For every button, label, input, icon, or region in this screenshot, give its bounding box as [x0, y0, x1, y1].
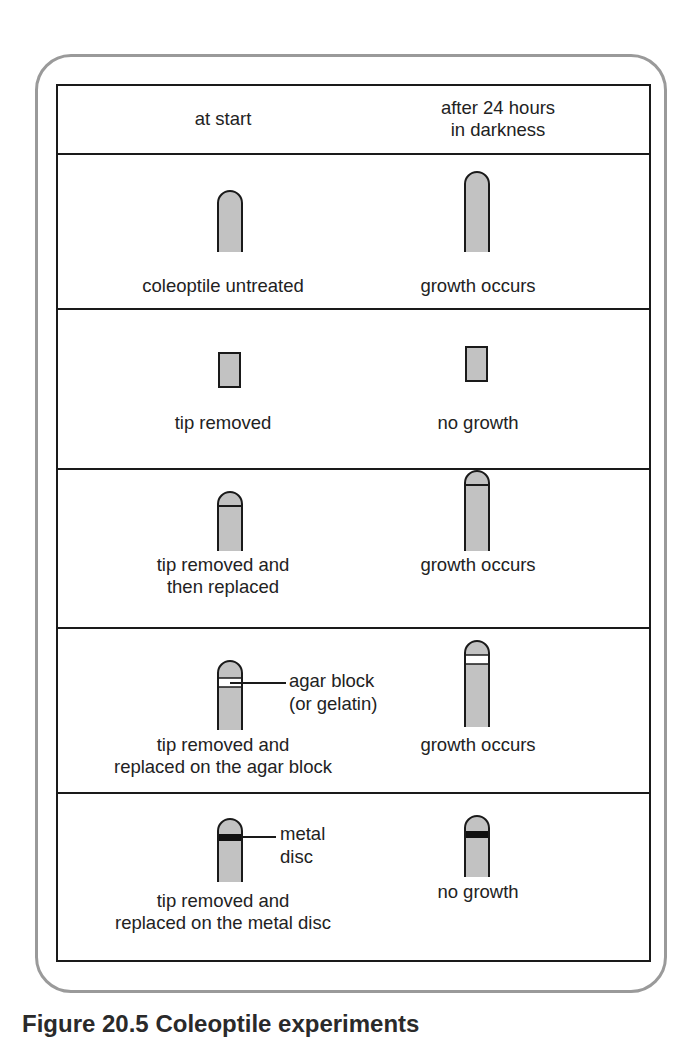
label-tip-removed-replaced-line1: tip removed and	[98, 554, 348, 576]
label-metal-start-line1: tip removed and	[78, 890, 368, 912]
label-agar-start-line2: replaced on the agar block	[78, 756, 368, 778]
coleoptile-metal-disc-icon	[216, 819, 276, 883]
table-row-metal-disc: metal disc tip removed and replaced on t…	[58, 794, 649, 960]
figure-number: Figure 20.5	[22, 1010, 149, 1037]
label-metal-start-line2: replaced on the metal disc	[78, 912, 368, 934]
label-agar-start-line1: tip removed and	[78, 734, 368, 756]
header-after-24h-line1: after 24 hours	[398, 97, 598, 119]
experiment-table: at start after 24 hours in darkness cole…	[56, 84, 651, 962]
table-row-agar-block: agar block (or gelatin) tip removed and …	[58, 629, 649, 794]
figure-caption: Figure 20.5 Coleoptile experiments	[22, 1010, 419, 1038]
annotation-disc: disc	[280, 846, 313, 868]
table-row-tip-replaced: tip removed and then replaced growth occ…	[58, 470, 649, 629]
label-growth-occurs-1: growth occurs	[388, 275, 568, 297]
table-header-row: at start after 24 hours in darkness	[58, 86, 649, 155]
label-no-growth-2: no growth	[388, 881, 568, 903]
label-growth-occurs-3: growth occurs	[388, 734, 568, 756]
label-growth-occurs-2: growth occurs	[388, 554, 568, 576]
label-coleoptile-untreated: coleoptile untreated	[98, 275, 348, 297]
label-no-growth-1: no growth	[388, 412, 568, 434]
annotation-agar-block: agar block	[289, 670, 374, 692]
table-row-untreated: coleoptile untreated growth occurs	[58, 155, 649, 310]
coleoptile-replaced-tip-icon	[216, 492, 244, 552]
header-at-start: at start	[153, 108, 293, 130]
coleoptile-metal-disc-no-growth-icon	[463, 816, 491, 878]
label-tip-removed: tip removed	[98, 412, 348, 434]
table-row-tip-removed: tip removed no growth	[58, 310, 649, 470]
coleoptile-stump-no-growth-icon	[463, 345, 491, 383]
coleoptile-replaced-tip-grown-icon	[463, 471, 491, 552]
figure-title: Coleoptile experiments	[155, 1010, 419, 1037]
coleoptile-agar-block-icon	[216, 661, 286, 731]
coleoptile-intact-icon	[216, 191, 244, 253]
annotation-metal: metal	[280, 823, 325, 845]
header-after-24h-line2: in darkness	[398, 119, 598, 141]
label-tip-removed-replaced-line2: then replaced	[98, 576, 348, 598]
coleoptile-agar-block-grown-icon	[463, 641, 491, 729]
annotation-or-gelatin: (or gelatin)	[289, 693, 377, 715]
coleoptile-stump-icon	[216, 351, 244, 389]
coleoptile-grown-icon	[463, 172, 491, 253]
